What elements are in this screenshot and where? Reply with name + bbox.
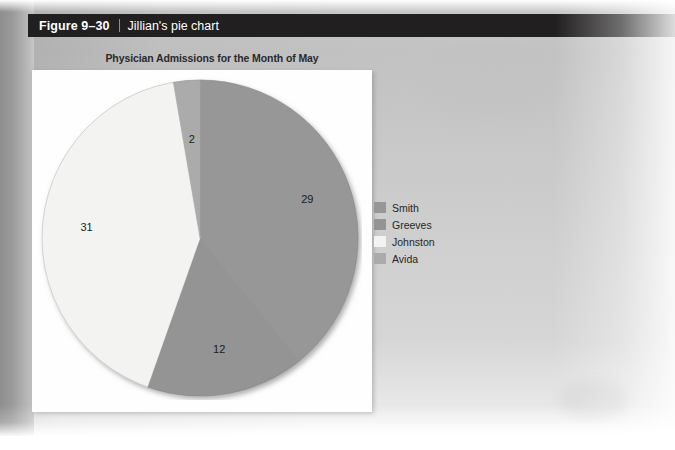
figure-number: Figure 9–30 [28,19,110,33]
page-top-fade [0,0,675,12]
legend-swatch-icon [374,219,386,230]
legend-swatch-icon [374,236,386,247]
legend-swatch-icon [374,253,386,264]
pie-slice-label: 12 [213,343,225,355]
legend-item-greeves: Greeves [374,216,470,233]
legend-item-johnston: Johnston [374,233,470,250]
caption-divider [119,19,120,32]
chart-title: Physician Admissions for the Month of Ma… [62,52,362,64]
legend-label: Johnston [392,236,435,248]
pie-slice-group [42,80,358,396]
legend-label: Greeves [392,219,432,231]
legend-swatch-icon [374,202,386,213]
chart-legend: Smith Greeves Johnston Avida [374,199,470,267]
legend-label: Smith [392,202,419,214]
page-right-fade [555,0,675,436]
legend-label: Avida [392,253,418,265]
legend-item-avida: Avida [374,250,470,267]
pie-slice-label: 2 [189,133,195,145]
pie-chart-svg: 2912312 [38,76,362,400]
page-bottom-fade [0,404,675,450]
figure-caption-text: Jillian's pie chart [128,19,219,33]
page-spine-shadow [0,0,34,436]
pie-slice-label: 31 [80,221,92,233]
legend-item-smith: Smith [374,199,470,216]
pie-slice-label: 29 [301,193,313,205]
pie-chart: 2912312 [38,76,362,400]
